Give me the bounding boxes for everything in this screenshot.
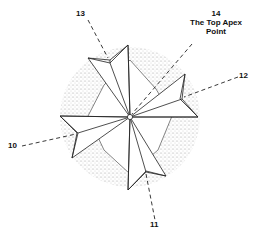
label-13: 13: [76, 9, 85, 18]
label-14-number: 14: [186, 9, 246, 18]
label-11: 11: [150, 220, 158, 229]
label-14-line2: Point: [186, 27, 246, 36]
label-12: 12: [239, 71, 248, 80]
label-14-line1: The Top Apex: [186, 18, 246, 27]
top-apex-point: [127, 114, 132, 119]
label-14: 14 The Top Apex Point: [186, 9, 246, 36]
leader-line-13: [88, 20, 108, 58]
label-10: 10: [8, 141, 17, 150]
